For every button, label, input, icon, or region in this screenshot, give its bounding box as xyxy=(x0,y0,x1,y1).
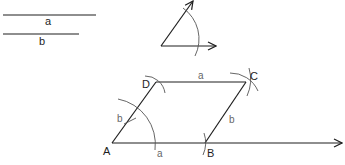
side-AB-label: a xyxy=(157,148,163,159)
point-C-label: C xyxy=(250,70,258,82)
side-AD-label: b xyxy=(117,113,123,124)
point-B-label: B xyxy=(207,147,214,159)
arc-mark-at-B xyxy=(203,133,206,155)
given-segment-b: b xyxy=(3,34,79,47)
angle-arc xyxy=(183,8,199,56)
construction-diagram: a b A B C D a xyxy=(0,0,345,165)
point-A-label: A xyxy=(103,145,111,157)
segment-a-label: a xyxy=(45,15,52,27)
parallelogram: A B C D a a b b xyxy=(103,68,342,159)
side-BC xyxy=(205,82,246,143)
given-angle xyxy=(161,1,216,56)
segment-b-label: b xyxy=(39,35,45,47)
side-DC-label: a xyxy=(198,70,204,81)
side-BC-label: b xyxy=(229,114,235,125)
given-segment-a: a xyxy=(3,15,96,27)
arc-radius-a-at-A xyxy=(118,99,155,150)
point-D-label: D xyxy=(142,78,150,90)
